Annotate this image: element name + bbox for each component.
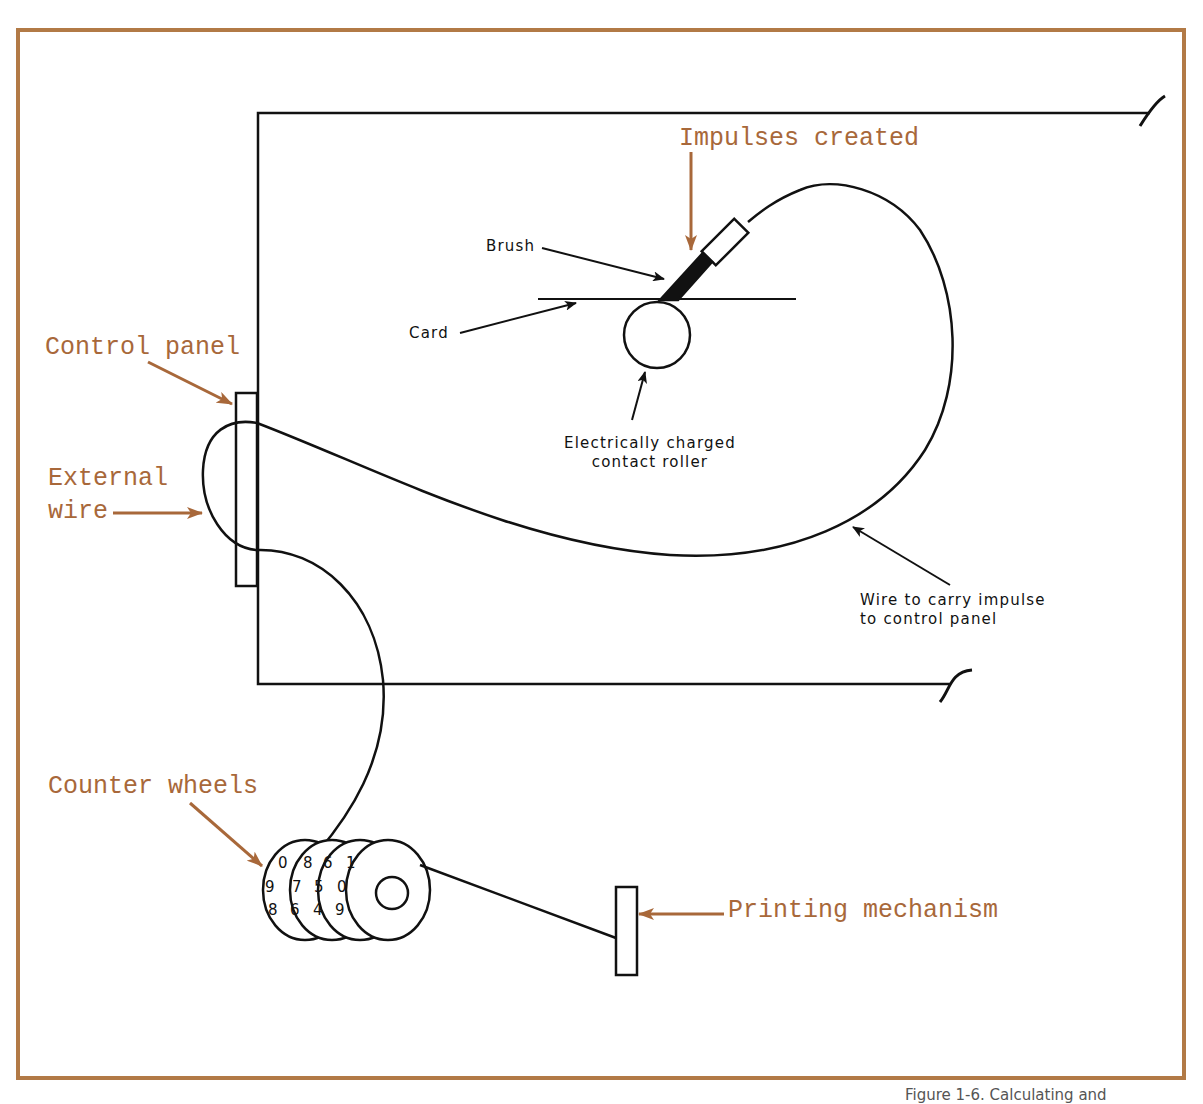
svg-text:6: 6 <box>290 901 300 919</box>
brush <box>660 219 748 300</box>
svg-text:6: 6 <box>323 854 333 872</box>
label-control-panel: Control panel <box>45 333 240 363</box>
label-printing-mechanism: Printing mechanism <box>728 896 998 926</box>
label-wire-2: to control panel <box>860 609 997 629</box>
label-impulses-created: Impulses created <box>679 124 919 154</box>
label-counter-wheels: Counter wheels <box>48 772 258 802</box>
svg-text:5: 5 <box>314 878 324 896</box>
counter-wire <box>257 550 384 852</box>
brush-arrow <box>542 248 664 279</box>
svg-text:8: 8 <box>303 854 313 872</box>
figure-caption: Figure 1-6. Calculating and <box>905 1086 1107 1104</box>
card-arrow <box>460 303 576 333</box>
label-roller-1: Electrically charged <box>530 433 770 453</box>
label-external-wire-2: wire <box>48 497 108 527</box>
label-wire-1: Wire to carry impulse <box>860 590 1046 610</box>
label-card: Card <box>409 323 449 343</box>
machine-housing <box>258 96 1165 702</box>
figure-frame <box>18 30 1184 1078</box>
svg-text:7: 7 <box>292 878 302 896</box>
svg-text:0: 0 <box>278 854 288 872</box>
label-external-wire-1: External <box>48 464 168 494</box>
label-brush: Brush <box>486 236 535 256</box>
printing-mechanism <box>616 887 637 975</box>
svg-text:1: 1 <box>346 854 356 872</box>
svg-text:9: 9 <box>265 878 275 896</box>
svg-text:4: 4 <box>313 901 323 919</box>
counter-wheels-arrow <box>190 803 262 866</box>
label-roller-2: contact roller <box>530 452 770 472</box>
control-panel-arrow <box>148 362 232 404</box>
svg-text:8: 8 <box>268 901 278 919</box>
svg-text:9: 9 <box>335 901 345 919</box>
wire-arrow <box>853 527 950 585</box>
roller-arrow <box>632 372 645 420</box>
contact-roller <box>624 302 690 368</box>
impulse-wire <box>257 184 953 555</box>
svg-text:0: 0 <box>337 878 347 896</box>
print-belt <box>420 865 616 938</box>
